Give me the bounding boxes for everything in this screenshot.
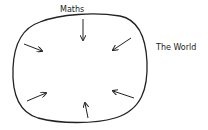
arrow-bottom-right (113, 91, 134, 98)
arrow-top-right (113, 38, 131, 50)
maths-label: Maths (60, 6, 84, 14)
arrow-bottom (85, 103, 88, 118)
world-boundary-loop (13, 14, 147, 123)
arrow-bottom-left (27, 93, 46, 101)
arrow-top-left (24, 44, 42, 51)
diagram-canvas: Maths The World (0, 0, 208, 130)
the-world-label: The World (156, 44, 196, 52)
maths-world-diagram (0, 0, 208, 130)
